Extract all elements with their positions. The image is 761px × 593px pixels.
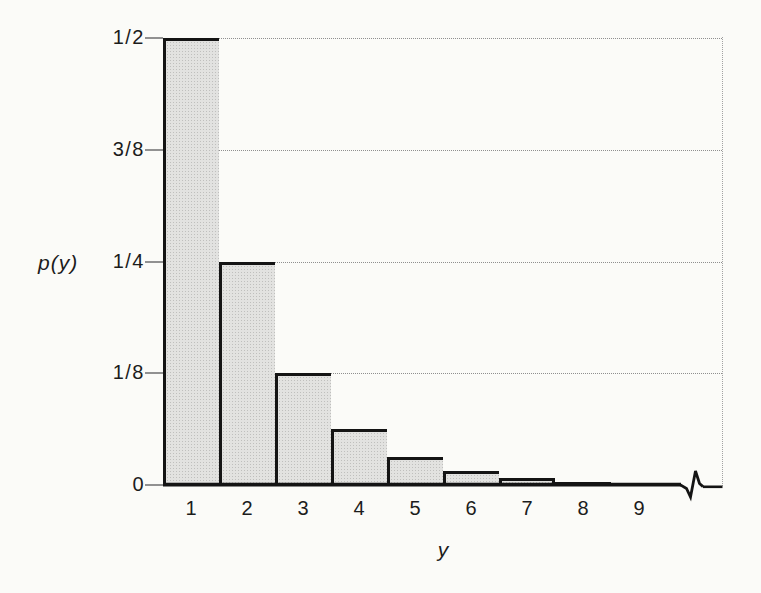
y-axis-title: p(y) [38, 251, 78, 275]
bar [611, 483, 667, 485]
y-tick-label: 1/8 [83, 361, 145, 384]
gridline [163, 38, 722, 39]
x-tick-label: 4 [353, 497, 364, 520]
bar [499, 478, 555, 485]
axis-break-mark [680, 471, 703, 497]
plot-right-border [722, 37, 723, 486]
gridline [163, 150, 722, 151]
bar [219, 262, 275, 486]
x-tick-label: 9 [633, 497, 644, 520]
x-tick-label: 1 [185, 497, 196, 520]
x-tick-label: 7 [521, 497, 532, 520]
x-axis-line [0, 0, 761, 593]
bar [331, 429, 387, 485]
bar [163, 38, 219, 485]
y-tick-label: 0 [83, 473, 145, 496]
y-tick [145, 149, 163, 151]
x-axis-title: y [438, 538, 449, 562]
bar [387, 457, 443, 485]
y-tick-label: 3/8 [83, 137, 145, 160]
y-tick-label: 1/2 [83, 26, 145, 49]
bar [555, 482, 611, 485]
x-tick-label: 6 [465, 497, 476, 520]
bar [275, 373, 331, 485]
y-tick [145, 37, 163, 39]
x-tick-label: 3 [297, 497, 308, 520]
y-tick-label: 1/4 [83, 249, 145, 272]
bar [443, 471, 499, 485]
x-tick-label: 2 [241, 497, 252, 520]
y-tick [145, 484, 163, 486]
x-tick-label: 5 [409, 497, 420, 520]
y-tick [145, 372, 163, 374]
x-tick-label: 8 [577, 497, 588, 520]
y-tick [145, 261, 163, 263]
probability-histogram-figure: 1/23/81/41/80 p(y) y 123456789 [0, 0, 761, 593]
